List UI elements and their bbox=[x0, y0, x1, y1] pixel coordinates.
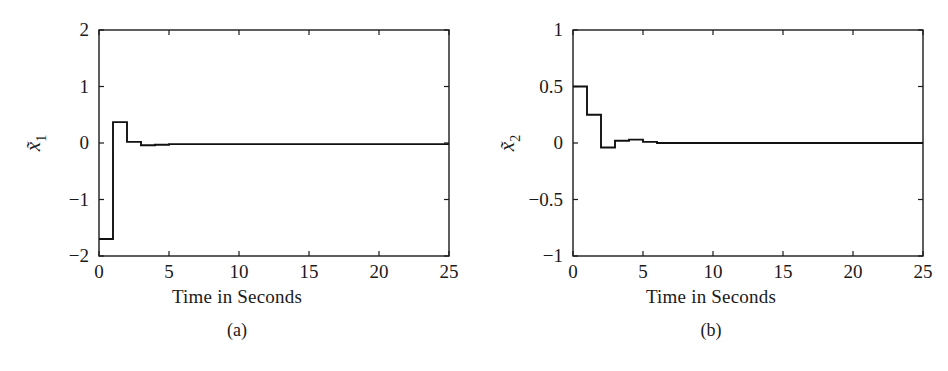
y-tick-label: 0.5 bbox=[539, 76, 563, 97]
panel-a: 0510152025−2−1012 x̃1 Time in Seconds (a… bbox=[0, 0, 474, 371]
x-tick-label: 0 bbox=[94, 261, 104, 282]
y-tick-label: −2 bbox=[69, 245, 89, 266]
y-tick-label: 0 bbox=[554, 132, 564, 153]
panel-b: 0510152025−1−0.500.51 x̃2 Time in Second… bbox=[474, 0, 948, 371]
subcaption-b: (b) bbox=[474, 320, 948, 341]
y-tick-label: 2 bbox=[80, 19, 90, 40]
figure-container: 0510152025−2−1012 x̃1 Time in Seconds (a… bbox=[0, 0, 948, 371]
y-tick-label: −0.5 bbox=[529, 189, 563, 210]
plot-frame bbox=[99, 30, 449, 256]
plot-a-axes: 0510152025−2−1012 bbox=[69, 19, 459, 282]
x-tick-label: 10 bbox=[230, 261, 249, 282]
y-axis-subscript: 1 bbox=[34, 135, 49, 142]
x-tick-label: 15 bbox=[300, 261, 319, 282]
plot-a: 0510152025−2−1012 x̃1 bbox=[0, 0, 474, 300]
x-tick-label: 20 bbox=[370, 261, 389, 282]
y-tick-label: 1 bbox=[80, 76, 90, 97]
data-series-x1_tilde bbox=[99, 122, 449, 239]
y-axis-subscript: 2 bbox=[508, 135, 523, 142]
y-tick-label: −1 bbox=[543, 245, 563, 266]
x-tick-label: 25 bbox=[914, 261, 933, 282]
y-tick-label: 1 bbox=[554, 19, 564, 40]
x-tick-label: 20 bbox=[844, 261, 863, 282]
subcaption-a: (a) bbox=[0, 320, 474, 341]
y-axis-label-b: x̃2 bbox=[495, 135, 523, 152]
x-tick-label: 5 bbox=[164, 261, 174, 282]
x-tick-label: 10 bbox=[704, 261, 723, 282]
x-axis-label-a: Time in Seconds bbox=[0, 286, 474, 308]
y-tick-label: −1 bbox=[69, 189, 89, 210]
data-series-x2_tilde bbox=[573, 87, 923, 148]
y-tick-label: 0 bbox=[80, 132, 90, 153]
x-tick-label: 15 bbox=[774, 261, 793, 282]
x-tick-label: 25 bbox=[440, 261, 459, 282]
x-axis-label-b: Time in Seconds bbox=[474, 286, 948, 308]
x-tick-label: 0 bbox=[568, 261, 578, 282]
y-axis-label-a: x̃1 bbox=[21, 135, 49, 152]
plot-b: 0510152025−1−0.500.51 x̃2 bbox=[474, 0, 948, 300]
plot-b-axes: 0510152025−1−0.500.51 bbox=[529, 19, 933, 282]
x-tick-label: 5 bbox=[638, 261, 648, 282]
